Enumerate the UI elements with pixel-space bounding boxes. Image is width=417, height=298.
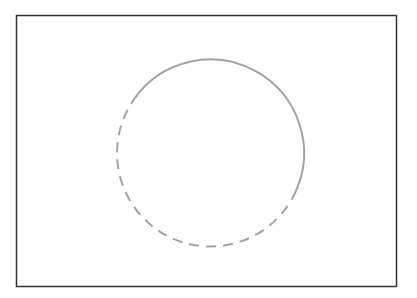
circle-dashed-arc	[117, 99, 296, 246]
diagram-canvas	[0, 0, 417, 298]
circle-solid-arc	[134, 59, 304, 191]
